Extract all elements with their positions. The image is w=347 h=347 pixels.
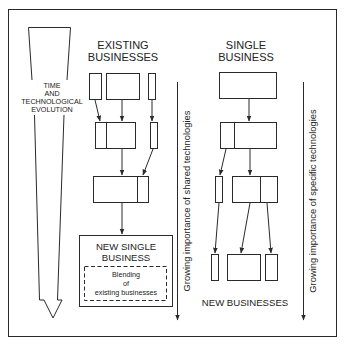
existing-box-c2 [151,123,158,149]
shared-axis-label: Growing importance of shared technologie… [181,110,192,291]
single-title-line-2: BUSINESS [218,51,274,63]
existing-title-line-2: BUSINESSES [88,51,158,63]
technology-evolution-diagram: TIME AND TECHNOLOGICAL EVOLUTION EXISTIN… [0,0,347,347]
blending-line-3: existing businesses [95,288,158,297]
arrow-to-new-a [215,203,219,253]
specific-technologies-axis: Growing importance of specific technolog… [304,82,319,320]
single-box-3b [233,177,278,203]
new-single-title-line-2: BUSINESS [102,252,151,263]
single-business-column: SINGLE BUSINESS NEW BUSINESSES [202,39,288,308]
single-box-2 [221,123,277,149]
new-businesses-label: NEW BUSINESSES [202,297,288,308]
time-label-line-4: EVOLUTION [31,105,73,114]
existing-title-line-1: EXISTING [97,39,148,51]
arrow-to-new-b [241,203,250,253]
new-business-b [228,255,261,281]
existing-merged-box-2 [94,177,149,203]
new-business-c [266,255,278,281]
specific-axis-label: Growing importance of specific technolog… [307,109,318,293]
existing-businesses-column: EXISTING BUSINESSES NEW SINGLE BUSINESS … [80,39,173,307]
existing-box-b [107,74,140,100]
existing-merged-box-1 [96,123,136,149]
time-evolution-arrow: TIME AND TECHNOLOGICAL EVOLUTION [21,28,83,319]
arrow-c2-to-merged [143,149,153,175]
single-box-1 [220,73,277,99]
arrow-to-new-c [267,203,271,253]
existing-box-a [90,74,102,100]
single-box-3a [216,177,223,203]
arrow-split-left [220,149,226,175]
new-single-title-line-1: NEW SINGLE [96,241,156,252]
blending-line-2: of [123,279,129,288]
new-business-a [212,255,219,281]
blending-line-1: Blending [112,270,140,279]
shared-technologies-axis: Growing importance of shared technologie… [178,82,193,320]
arrow-a-to-merged [95,100,100,121]
existing-box-c [149,74,156,100]
single-title-line-1: SINGLE [226,39,266,51]
